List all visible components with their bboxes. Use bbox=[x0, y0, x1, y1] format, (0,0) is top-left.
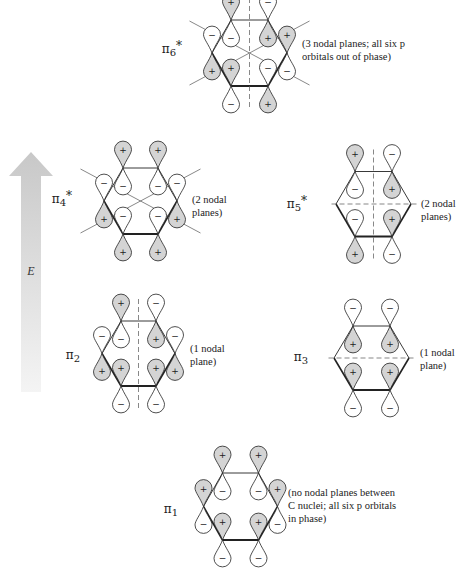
p-orbital-lobe: − bbox=[347, 172, 364, 199]
minus-sign: − bbox=[388, 149, 396, 159]
p-orbital-lobe: − bbox=[150, 168, 167, 195]
p-orbital-lobe: + bbox=[214, 513, 231, 540]
orbital-note-line: (1 nodal bbox=[190, 343, 225, 355]
minus-sign: − bbox=[219, 486, 227, 496]
plus-sign: + bbox=[154, 247, 162, 257]
p-orbital-lobe: + bbox=[250, 446, 267, 473]
orbitals-layer: +−−++−−++−−+π6*(3 nodal planes; all six … bbox=[52, 0, 456, 567]
orbital-note: (2 nodalplanes) bbox=[421, 198, 456, 223]
p-orbital-lobe: − bbox=[384, 145, 401, 172]
p-orbital-lobe: − bbox=[345, 390, 362, 417]
plus-sign: + bbox=[219, 517, 227, 527]
orbital-note-line: (no nodal planes between bbox=[288, 487, 396, 499]
p-orbital-lobe: + bbox=[223, 0, 240, 20]
minus-sign: − bbox=[255, 553, 263, 563]
orbital-pi1: +−+−+−+−+−+−π1(no nodal planes betweenC … bbox=[164, 446, 396, 567]
benzene-pi-molecular-orbitals-diagram: E +−−++−−++−−+π6*(3 nodal planes; all si… bbox=[0, 0, 463, 577]
minus-sign: − bbox=[386, 403, 394, 413]
minus-sign: − bbox=[154, 181, 162, 191]
p-orbital-lobe: − bbox=[250, 540, 267, 567]
orbital-pi6: +−−++−−++−−+π6*(3 nodal planes; all six … bbox=[162, 0, 405, 113]
orbital-note-line: (2 nodal bbox=[421, 198, 456, 210]
p-orbital-lobe: − bbox=[115, 168, 132, 195]
orbital-label-pi: π bbox=[66, 348, 74, 362]
minus-sign: − bbox=[283, 66, 291, 76]
p-orbital-lobe: + bbox=[167, 354, 184, 381]
p-orbital-lobe: − bbox=[113, 386, 130, 413]
p-orbital-lobe: + bbox=[113, 359, 130, 386]
p-orbital-lobe: − bbox=[150, 207, 167, 234]
p-orbital-lobe: − bbox=[115, 207, 132, 234]
minus-sign: − bbox=[227, 33, 235, 43]
plus-sign: + bbox=[255, 450, 263, 460]
minus-sign: − bbox=[98, 331, 106, 341]
p-orbital-lobe: − bbox=[269, 507, 286, 534]
p-orbital-lobe: − bbox=[96, 174, 113, 201]
minus-sign: − bbox=[264, 0, 272, 7]
minus-sign: − bbox=[351, 184, 359, 194]
orbital-label-pi: π bbox=[162, 42, 170, 56]
orbital-note-line: planes) bbox=[192, 207, 223, 219]
p-orbital-lobe: + bbox=[115, 234, 132, 261]
p-orbital-lobe: − bbox=[113, 321, 130, 348]
minus-sign: − bbox=[152, 399, 160, 409]
orbital-label: π5* bbox=[287, 194, 307, 213]
orbital-note: (2 nodalplanes) bbox=[192, 194, 227, 219]
plus-sign: + bbox=[119, 145, 127, 155]
p-orbital-lobe: + bbox=[195, 480, 212, 507]
orbital-label-star: * bbox=[301, 194, 307, 208]
p-orbital-lobe: − bbox=[214, 540, 231, 567]
orbital-note: (1 nodalplane) bbox=[190, 343, 225, 368]
p-orbital-lobe: + bbox=[347, 145, 364, 172]
plus-sign: + bbox=[351, 149, 359, 159]
p-orbital-lobe: + bbox=[279, 26, 296, 53]
p-orbital-lobe: − bbox=[382, 390, 399, 417]
plus-sign: + bbox=[117, 363, 125, 373]
p-orbital-lobe: + bbox=[345, 363, 362, 390]
minus-sign: − bbox=[219, 553, 227, 563]
p-orbital-lobe: + bbox=[113, 294, 130, 321]
plus-sign: + bbox=[255, 517, 263, 527]
orbital-label-pi: π bbox=[164, 502, 172, 516]
minus-sign: − bbox=[173, 178, 181, 188]
minus-sign: − bbox=[264, 63, 272, 73]
energy-label: E bbox=[26, 264, 35, 278]
p-orbital-lobe: − bbox=[148, 294, 165, 321]
plus-sign: + bbox=[171, 366, 179, 376]
p-orbital-lobe: + bbox=[150, 234, 167, 261]
minus-sign: − bbox=[386, 303, 394, 313]
p-orbital-lobe: − bbox=[279, 53, 296, 80]
plus-sign: + bbox=[386, 339, 394, 349]
minus-sign: − bbox=[119, 181, 127, 191]
p-orbital-lobe: − bbox=[347, 210, 364, 237]
minus-sign: − bbox=[388, 249, 396, 259]
plus-sign: + bbox=[219, 450, 227, 460]
orbital-label: π3 bbox=[294, 350, 308, 366]
p-orbital-lobe: − bbox=[167, 327, 184, 354]
minus-sign: − bbox=[154, 211, 162, 221]
p-orbital-lobe: + bbox=[214, 446, 231, 473]
p-orbital-lobe: + bbox=[204, 53, 221, 80]
orbital-note: (no nodal planes betweenC nuclei; all si… bbox=[288, 487, 396, 525]
p-orbital-lobe: + bbox=[382, 363, 399, 390]
orbital-note-line: orbitals out of phase) bbox=[302, 51, 391, 63]
p-orbital-lobe: − bbox=[250, 473, 267, 500]
minus-sign: − bbox=[119, 211, 127, 221]
minus-sign: − bbox=[200, 519, 208, 529]
plus-sign: + bbox=[117, 298, 125, 308]
minus-sign: − bbox=[351, 214, 359, 224]
plus-sign: + bbox=[264, 99, 272, 109]
orbital-label: π2 bbox=[66, 348, 80, 364]
p-orbital-lobe: + bbox=[269, 480, 286, 507]
p-orbital-lobe: − bbox=[204, 26, 221, 53]
p-orbital-lobe: + bbox=[382, 326, 399, 353]
orbital-note-line: (2 nodal bbox=[192, 194, 227, 206]
orbital-label: π6* bbox=[162, 39, 182, 58]
orbital-label-subscript: 2 bbox=[74, 353, 80, 364]
p-orbital-lobe: + bbox=[148, 321, 165, 348]
plus-sign: + bbox=[386, 367, 394, 377]
p-orbital-lobe: + bbox=[384, 172, 401, 199]
plus-sign: + bbox=[98, 366, 106, 376]
p-orbital-lobe: + bbox=[260, 20, 277, 47]
plus-sign: + bbox=[388, 214, 396, 224]
